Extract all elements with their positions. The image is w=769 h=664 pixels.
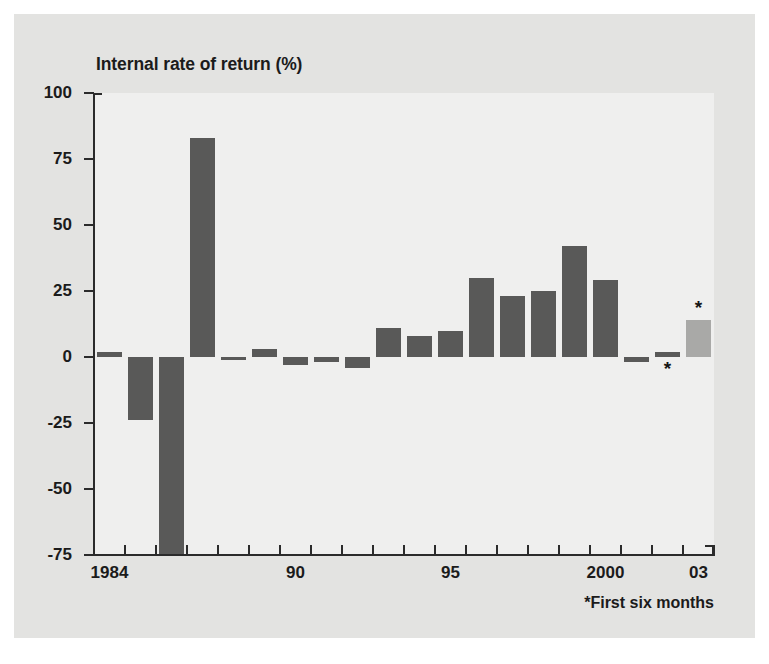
y-axis-tick-label: 75 [53, 149, 72, 169]
bar-1984 [97, 352, 122, 357]
bar-1999 [562, 246, 587, 357]
bar-2003 [686, 320, 711, 357]
x-axis-tick [434, 545, 436, 556]
bar-asterisk-2002: * [664, 359, 671, 378]
bar-asterisk-2003: * [695, 298, 702, 317]
y-axis-tick [84, 158, 94, 160]
x-axis-tick-label: 90 [286, 563, 305, 583]
y-axis-tick [84, 224, 94, 226]
y-axis-tick [84, 488, 94, 490]
y-axis-tick [84, 290, 94, 292]
y-axis-tick [84, 554, 94, 556]
x-axis-tick [527, 545, 529, 556]
y-axis-tick-label: 25 [53, 281, 72, 301]
y-axis-tick-label: 50 [53, 215, 72, 235]
x-axis-tick [341, 545, 343, 556]
x-axis-tick [713, 545, 715, 556]
y-axis-tick [84, 92, 94, 94]
y-axis-line [93, 93, 95, 556]
x-axis-tick [403, 545, 405, 556]
bar-1993 [376, 328, 401, 357]
footnote: *First six months [584, 594, 714, 612]
y-axis-tick-label: -25 [47, 413, 72, 433]
bar-1994 [407, 336, 432, 357]
y-axis-tick [84, 356, 94, 358]
bar-2001 [624, 357, 649, 362]
x-axis-tick [558, 545, 560, 556]
x-axis-tick-label: 95 [441, 563, 460, 583]
x-axis-tick [589, 545, 591, 556]
bar-1988 [221, 357, 246, 360]
y-axis-tick-label: -75 [47, 545, 72, 565]
x-axis-tick-label: 03 [689, 563, 708, 583]
x-axis-tick [372, 545, 374, 556]
x-axis-tick [186, 545, 188, 556]
x-axis-tick [651, 545, 653, 556]
x-axis-tick [465, 545, 467, 556]
y-axis-top-cap [93, 93, 102, 95]
x-axis-tick-label: 2000 [587, 563, 625, 583]
bar-1995 [438, 331, 463, 357]
plot-area [94, 93, 714, 555]
bar-1990 [283, 357, 308, 365]
bar-2002 [655, 352, 680, 357]
y-axis-tick-label: 100 [44, 83, 72, 103]
chart-figure: Internal rate of return (%) 1007550250-2… [0, 0, 769, 664]
x-axis-tick [620, 545, 622, 556]
chart-title: Internal rate of return (%) [96, 54, 302, 75]
x-axis-tick-label: 1984 [91, 563, 129, 583]
x-axis-tick [155, 545, 157, 556]
bar-1985 [128, 357, 153, 420]
bar-2000 [593, 280, 618, 357]
x-axis-tick [279, 545, 281, 556]
plot-bars-container [94, 93, 714, 555]
y-axis-tick [84, 422, 94, 424]
bar-1991 [314, 357, 339, 362]
bar-1996 [469, 278, 494, 357]
bar-1992 [345, 357, 370, 368]
bar-1989 [252, 349, 277, 357]
x-axis-tick [124, 545, 126, 556]
bar-1997 [500, 296, 525, 357]
x-axis-tick [248, 545, 250, 556]
bar-1998 [531, 291, 556, 357]
x-axis-tick [310, 545, 312, 556]
x-axis-tick [217, 545, 219, 556]
bar-1987 [190, 138, 215, 357]
x-axis-tick [496, 545, 498, 556]
x-axis-tick [682, 545, 684, 556]
y-axis-tick-label: 0 [63, 347, 72, 367]
y-axis-tick-label: -50 [47, 479, 72, 499]
bar-1986 [159, 357, 184, 555]
